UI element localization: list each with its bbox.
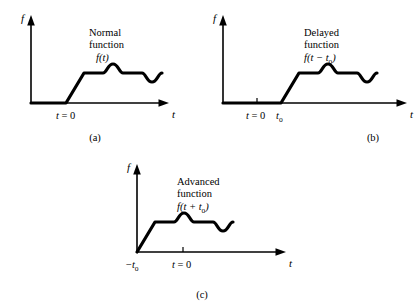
shift-tick-label: −to xyxy=(126,259,139,273)
waveform-normal xyxy=(31,64,162,103)
shift-tick-label: to xyxy=(276,110,283,124)
origin-tick-label-rest: = 0 xyxy=(175,259,191,270)
annotation-line-1: Normal xyxy=(89,27,121,38)
panel-advanced-function: f t −to t = 0 Advanced function f(t + to… xyxy=(92,152,322,308)
waveform-advanced xyxy=(137,213,233,252)
x-axis-arrow-icon xyxy=(276,248,287,256)
x-axis-label: t xyxy=(289,257,293,269)
x-axis-arrow-icon xyxy=(397,99,408,107)
annotation-line-2: function xyxy=(304,39,340,50)
annotation-math: f(t) xyxy=(96,52,109,64)
origin-tick-label: t = 0 xyxy=(246,110,265,121)
annotation-math-prefix: f(t + t xyxy=(177,201,203,213)
panel-normal-function: f t t = 0 Normal function f(t) (a) xyxy=(0,0,210,150)
annotation-math: f(t − to) xyxy=(304,52,336,66)
x-axis-arrow-icon xyxy=(159,99,170,107)
y-axis-label: f xyxy=(21,12,26,24)
annotation-line-2: function xyxy=(89,39,125,50)
y-axis-arrow-icon xyxy=(27,15,35,26)
origin-tick-label: t = 0 xyxy=(56,110,75,121)
origin-tick-label-rest: = 0 xyxy=(249,110,265,121)
panel-caption: (c) xyxy=(196,289,208,301)
origin-tick-label-rest: = 0 xyxy=(59,110,75,121)
panel-caption: (a) xyxy=(89,132,101,144)
annotation-math-prefix: f(t − t xyxy=(304,52,330,64)
y-axis-arrow-icon xyxy=(133,164,141,175)
y-axis-label: f xyxy=(213,12,218,24)
annotation-math-suffix: ) xyxy=(204,201,209,213)
panel-caption: (b) xyxy=(367,132,380,144)
panel-delayed-function: f t t = 0 to Delayed function f(t − to) … xyxy=(205,0,417,150)
annotation-line-1: Delayed xyxy=(304,27,340,38)
origin-tick-label: t = 0 xyxy=(172,259,191,270)
annotation-line-2: function xyxy=(177,188,213,199)
waveform-delayed xyxy=(223,64,377,103)
annotation-math-suffix: ) xyxy=(331,52,336,64)
shift-tick-label-sub: o xyxy=(135,264,139,273)
annotation-line-1: Advanced xyxy=(177,176,220,187)
y-axis-arrow-icon xyxy=(219,15,227,26)
figure-container: f t t = 0 Normal function f(t) (a) xyxy=(0,0,417,308)
x-axis-label: t xyxy=(172,108,176,120)
y-axis-label: f xyxy=(127,161,132,173)
x-axis-label: t xyxy=(410,108,414,120)
annotation-math-prefix: f(t) xyxy=(96,52,109,64)
shift-tick-label-sub: o xyxy=(279,115,283,124)
